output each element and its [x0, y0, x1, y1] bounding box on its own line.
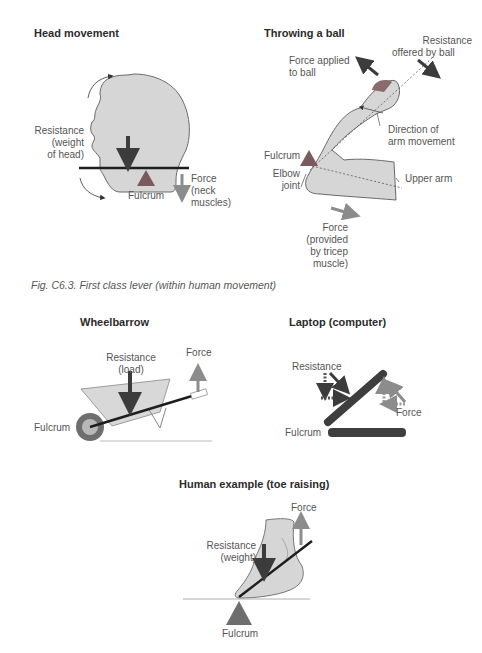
toe-fulcrum: [226, 601, 252, 625]
toe-resistance-label: Resistance (weight): [200, 540, 256, 564]
toe-force-label: Force: [291, 502, 317, 514]
toe-fulcrum-label: Fulcrum: [222, 628, 258, 640]
